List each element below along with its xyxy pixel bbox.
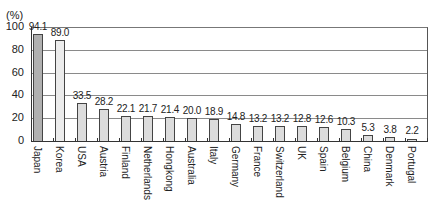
bar-germany [231, 124, 241, 141]
x-tick [163, 138, 164, 142]
x-tick [53, 138, 54, 142]
x-tick [75, 138, 76, 142]
y-tick-label: 0 [0, 134, 24, 146]
x-tick [317, 138, 318, 142]
bar-portugal [407, 139, 417, 142]
y-tick-label: 20 [0, 111, 24, 123]
bar-austria [99, 109, 109, 141]
y-tick-label: 40 [0, 88, 24, 100]
y-tick-label: 80 [0, 43, 24, 55]
x-tick [295, 138, 296, 142]
x-tick [141, 138, 142, 142]
y-axis [31, 27, 32, 142]
category-label: Spain [318, 146, 329, 172]
bar-netherlands [143, 116, 153, 141]
bar-france [253, 126, 263, 141]
category-label: Austria [98, 146, 109, 177]
x-tick [185, 138, 186, 142]
category-label: Italy [208, 146, 219, 164]
y-tick-label: 60 [0, 66, 24, 78]
bar-china [363, 135, 373, 141]
category-label: Finland [120, 146, 131, 179]
category-label: Germany [230, 146, 241, 187]
category-label: UK [296, 146, 307, 160]
bar-italy [209, 119, 219, 141]
x-tick [339, 138, 340, 142]
bar-uk [297, 126, 307, 141]
category-label: Hongkong [164, 146, 175, 192]
x-tick [229, 138, 230, 142]
bar-australia [187, 118, 197, 141]
category-label: Korea [54, 146, 65, 173]
x-tick [207, 138, 208, 142]
x-tick [405, 138, 406, 142]
bar-denmark [385, 137, 395, 141]
x-tick [427, 138, 428, 142]
category-label: Netherlands [142, 146, 153, 200]
category-label: Australia [186, 146, 197, 185]
x-tick [273, 138, 274, 142]
value-label: 89.0 [45, 27, 75, 38]
bar-belgium [341, 129, 351, 141]
bar-usa [77, 103, 87, 141]
value-label: 2.2 [397, 125, 427, 136]
category-label: Portugal [406, 146, 417, 183]
bar-korea [55, 40, 65, 141]
category-label: Japan [32, 146, 43, 173]
category-label: USA [76, 146, 87, 167]
category-label: China [362, 146, 373, 172]
bar-spain [319, 127, 329, 141]
x-tick [251, 138, 252, 142]
bar-switzerland [275, 126, 285, 141]
bar-finland [121, 116, 131, 141]
x-tick [383, 138, 384, 142]
y-tick-label: 100 [0, 20, 24, 32]
category-label: Switzerland [274, 146, 285, 198]
category-label: Denmark [384, 146, 395, 187]
x-tick [119, 138, 120, 142]
category-label: Belgium [340, 146, 351, 182]
category-label: France [252, 146, 263, 177]
bar-chart: (%) 020406080100 94.1Japan89.0Korea33.5U… [0, 0, 433, 203]
bar-hongkong [165, 117, 175, 141]
bar-japan [33, 34, 43, 141]
x-tick [97, 138, 98, 142]
x-tick [361, 138, 362, 142]
